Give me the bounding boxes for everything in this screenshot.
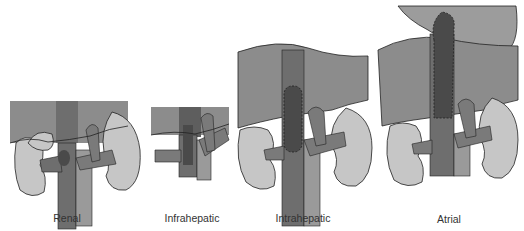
label-atrial: Atrial [437,213,461,225]
panel-atrial [368,0,524,231]
tumor-thrombus [284,86,302,152]
panel-infrahepatic [145,0,235,231]
panel-renal [0,0,150,231]
tumor-thrombus [183,125,193,165]
atrial-level-illustration [368,0,524,231]
tumor-thrombus [58,150,70,166]
label-intrahepatic: Intrahepatic [276,212,331,224]
intrahepatic-level-illustration [228,0,373,231]
label-renal: Renal [53,212,80,224]
label-infrahepatic: Infrahepatic [165,212,220,224]
panel-intrahepatic [228,0,373,231]
infrahepatic-level-illustration [145,0,235,231]
tumor-thrombus [433,12,454,118]
renal-level-illustration [0,0,150,231]
